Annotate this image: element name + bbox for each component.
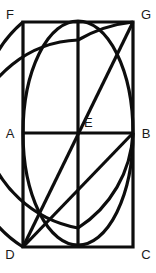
vertex-label-e: E — [84, 115, 93, 130]
vertex-label-a: A — [6, 126, 15, 141]
geometry-canvas: F G A E B D C — [0, 0, 156, 273]
vertex-label-c: C — [141, 247, 150, 262]
vertex-label-d: D — [5, 247, 14, 262]
geometry-figure: F G A E B D C — [0, 0, 156, 273]
vertex-label-b: B — [142, 126, 151, 141]
vertex-label-g: G — [141, 7, 151, 22]
vertex-label-f: F — [6, 7, 14, 22]
